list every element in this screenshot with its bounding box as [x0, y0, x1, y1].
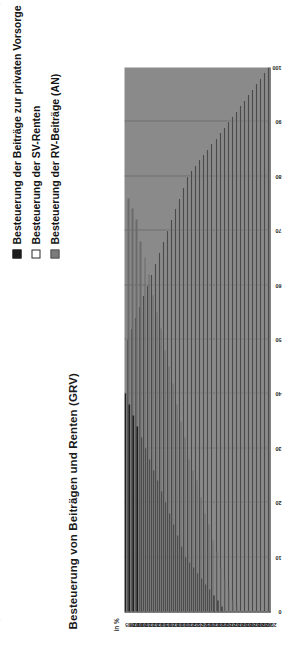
bar-2014-series-0 — [161, 491, 162, 611]
legend-label: Besteuerung der Beiträge zur privaten Vo… — [10, 5, 22, 244]
bar-2030-series-2 — [228, 589, 229, 611]
bar-2031-series-2 — [232, 600, 233, 611]
bar-2021-series-0 — [189, 562, 190, 611]
bar-2038-series-1 — [259, 78, 261, 611]
value-tick-90: 90 — [275, 118, 281, 124]
bar-2023-series-0 — [197, 573, 198, 611]
bar-2010-series-0 — [145, 448, 146, 611]
bar-2007-series-0 — [132, 415, 133, 611]
value-tick-40: 40 — [275, 390, 281, 396]
bar-2015-series-0 — [165, 502, 166, 611]
legend-swatch-filled-square-icon — [12, 249, 21, 258]
legend-item-private-vorsorge: Besteuerung der Beiträge zur privaten Vo… — [10, 8, 22, 258]
legend-item-sv-renten: Besteuerung der SV-Renten — [29, 8, 41, 258]
bar-2016-series-0 — [169, 513, 170, 611]
chart-figure: Besteuerung von Beiträgen und Renten (GR… — [0, 0, 307, 645]
bar-2027-series-1 — [215, 138, 217, 611]
bar-2022-series-0 — [193, 567, 194, 611]
figure-page: Besteuerung von Beiträgen und Renten (GR… — [0, 0, 307, 645]
bar-2035-series-1 — [247, 94, 249, 611]
legend-label: Besteuerung der RV-Beiträge (AN) — [48, 73, 60, 244]
bar-2025-series-0 — [205, 584, 206, 611]
bar-2034-series-1 — [243, 100, 245, 611]
bar-2013-series-0 — [157, 480, 158, 611]
value-tick-80: 80 — [275, 173, 281, 179]
bar-2008-series-0 — [136, 426, 137, 611]
bar-2029-series-2 — [224, 578, 225, 611]
bar-2033-series-1 — [239, 105, 241, 611]
value-tick-100: 100 — [272, 64, 281, 70]
bar-2039-series-1 — [263, 72, 265, 611]
bar-2005-series-0 — [124, 393, 125, 611]
bar-2009-series-0 — [141, 437, 142, 611]
plot-area — [124, 67, 270, 612]
legend-swatch-empty-square-icon — [31, 249, 40, 258]
bar-2028-series-2 — [220, 567, 221, 611]
bar-2019-series-0 — [181, 546, 182, 611]
chart-legend: Besteuerung der Beiträge zur privaten Vo… — [10, 8, 67, 258]
bar-2020-series-0 — [185, 557, 186, 611]
bar-2037-series-1 — [255, 83, 257, 611]
year-tick-2040: 2040 — [266, 621, 276, 626]
bar-2028-series-0 — [217, 600, 218, 611]
bar-2031-series-1 — [231, 116, 233, 611]
bar-2030-series-1 — [227, 121, 229, 611]
bar-2036-series-1 — [251, 89, 253, 611]
value-tick-70: 70 — [275, 227, 281, 233]
bar-2029-series-0 — [221, 606, 222, 611]
value-tick-20: 20 — [275, 499, 281, 505]
bar-2040-series-1 — [267, 67, 269, 611]
bar-2026-series-0 — [209, 589, 210, 611]
legend-item-rv-beitraege: Besteuerung der RV-Beiträge (AN) — [48, 8, 60, 258]
bar-2006-series-0 — [128, 404, 129, 611]
bar-2011-series-0 — [149, 459, 150, 611]
value-tick-10: 10 — [275, 554, 281, 560]
chart-title: Besteuerung von Beiträgen und Renten (GR… — [66, 373, 78, 629]
bar-2032-series-2 — [236, 606, 237, 611]
bar-2027-series-0 — [213, 595, 214, 611]
value-tick-50: 50 — [275, 336, 281, 342]
bar-2018-series-0 — [177, 535, 178, 611]
value-tick-30: 30 — [275, 445, 281, 451]
legend-swatch-gray-square-icon — [50, 249, 59, 258]
bar-2032-series-1 — [235, 111, 237, 611]
legend-label: Besteuerung der SV-Renten — [29, 105, 41, 244]
bar-2028-series-1 — [219, 132, 221, 611]
bar-2012-series-0 — [153, 470, 154, 611]
value-tick-60: 60 — [275, 282, 281, 288]
value-tick-0: 0 — [278, 608, 281, 614]
bar-2029-series-1 — [223, 127, 225, 611]
bar-2024-series-0 — [201, 578, 202, 611]
bar-2017-series-0 — [173, 524, 174, 611]
axis-unit-label: in % — [112, 618, 119, 631]
